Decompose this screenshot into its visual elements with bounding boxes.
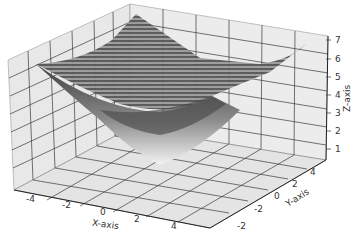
y-tick-label: 0 [274,191,280,201]
y-tick-label: 4 [310,167,316,177]
z-axis-ticks: 7 6 5 4 3 2 1 [326,35,341,154]
x-tick-label: 0 [100,207,106,217]
z-axis-label: Z-axis [342,84,352,112]
x-tick-label: 4 [171,221,177,231]
x-tick-label: 2 [134,214,140,224]
y-axis-label: Y-axis [283,186,311,209]
y-tick-label: -2 [254,204,263,214]
chart-3d-surface: 7 6 5 4 3 2 1 Z-axis -4 -2 0 2 4 X-axis … [0,0,353,237]
x-tick-label: -4 [26,194,35,204]
chart-canvas: 7 6 5 4 3 2 1 Z-axis -4 -2 0 2 4 X-axis … [0,0,353,237]
z-tick-label: 1 [335,144,341,154]
z-tick-label: 2 [335,126,341,136]
x-axis-label: X-axis [91,218,119,232]
y-tick-label: -2 [237,221,246,231]
z-tick-label: 5 [335,72,341,82]
z-tick-label: 7 [335,35,341,45]
y-tick-label: 2 [292,179,298,189]
z-tick-label: 4 [335,90,341,100]
x-tick-label: -2 [62,200,71,210]
z-tick-label: 6 [335,54,341,64]
z-tick-label: 3 [335,108,341,118]
